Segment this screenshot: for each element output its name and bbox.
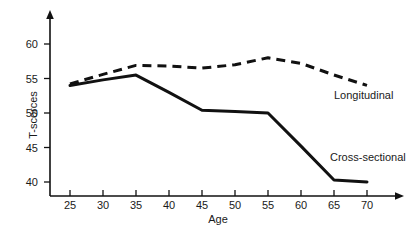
chart-container: 60 55 50 45 40 25 30 35 40 45 50 55 60 6… <box>0 0 420 238</box>
x-tick-label-55: 55 <box>262 200 274 211</box>
x-axis-ticks <box>70 190 367 196</box>
y-tick-label-45: 45 <box>16 142 38 153</box>
x-tick-label-25: 25 <box>64 200 76 211</box>
series-line-cross-sectional <box>70 75 367 182</box>
y-tick-label-55: 55 <box>16 73 38 84</box>
series-line-longitudinal <box>70 58 367 86</box>
y-axis-title: T-scorces <box>28 91 39 139</box>
x-tick-label-35: 35 <box>130 200 142 211</box>
series-label-longitudinal: Longitudinal <box>334 90 393 101</box>
x-tick-label-60: 60 <box>295 200 307 211</box>
x-axis-title: Age <box>208 214 228 225</box>
x-tick-label-70: 70 <box>361 200 373 211</box>
x-tick-label-50: 50 <box>229 200 241 211</box>
y-tick-label-40: 40 <box>16 177 38 188</box>
axes-group <box>46 10 404 200</box>
y-axis-ticks <box>44 44 50 182</box>
x-tick-label-45: 45 <box>196 200 208 211</box>
x-tick-label-40: 40 <box>163 200 175 211</box>
x-tick-label-30: 30 <box>97 200 109 211</box>
series-label-cross-sectional: Cross-sectional <box>330 152 406 163</box>
x-tick-label-65: 65 <box>328 200 340 211</box>
y-tick-label-60: 60 <box>16 39 38 50</box>
y-axis-arrowhead <box>46 10 54 19</box>
x-axis-arrowhead <box>395 192 404 200</box>
